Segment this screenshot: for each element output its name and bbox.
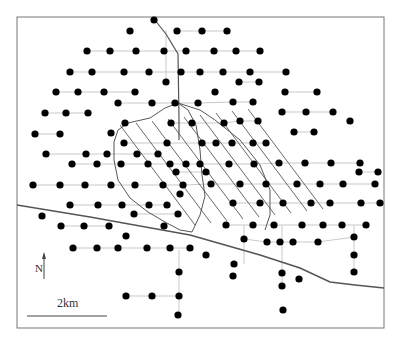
- station-dots: [29, 16, 383, 318]
- north-label: N: [35, 262, 43, 274]
- map-canvas: [0, 0, 398, 344]
- hatched-zone: [114, 103, 323, 232]
- scale-label: 2km: [57, 296, 78, 311]
